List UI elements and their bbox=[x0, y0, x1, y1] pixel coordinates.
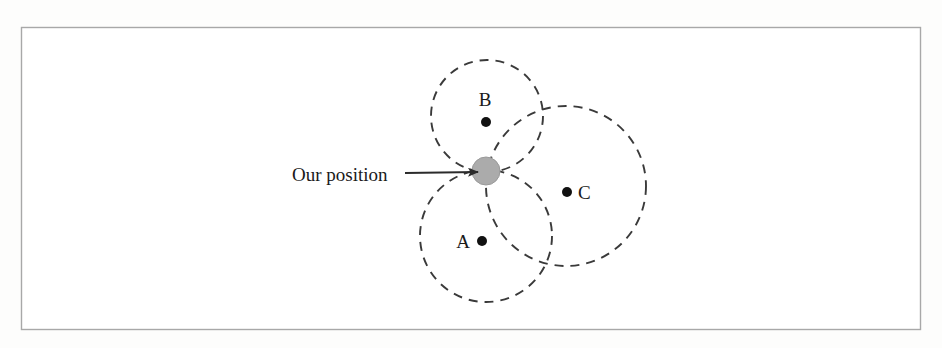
node-a-label: A bbox=[456, 231, 470, 252]
node-c-label: C bbox=[578, 182, 591, 203]
our-position-label: Our position bbox=[292, 164, 388, 185]
our-position-marker bbox=[472, 157, 500, 185]
node-a-dot bbox=[477, 236, 487, 246]
node-c-dot bbox=[562, 187, 572, 197]
node-b-label: B bbox=[479, 89, 492, 110]
node-b-dot bbox=[481, 117, 491, 127]
figure-border bbox=[22, 28, 921, 330]
figure-root: Our position B A C bbox=[0, 0, 942, 348]
trilateration-diagram: Our position B A C bbox=[0, 0, 942, 348]
callout-arrow bbox=[405, 172, 478, 173]
